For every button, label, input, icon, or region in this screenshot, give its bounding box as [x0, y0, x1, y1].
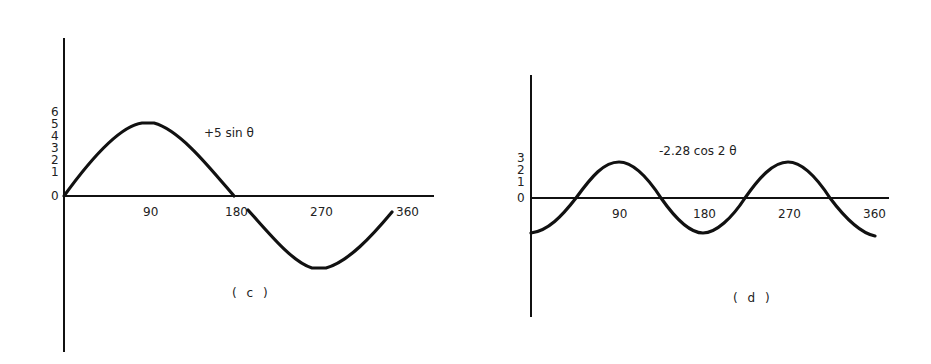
- chart-c: 6 5 4 3 2 1 0 90 180 270 360 +5 sin θ ( …: [51, 38, 434, 352]
- chart-c-curve-label: +5 sin θ: [204, 126, 254, 140]
- chart-c-caption: ( c ): [232, 286, 271, 300]
- chart-c-xtick: 270: [310, 205, 333, 219]
- chart-c-xtick: 360: [396, 205, 419, 219]
- chart-d-y-ticks: 3 2 1 0: [517, 151, 525, 205]
- chart-c-y-ticks: 6 5 4 3 2 1 0: [51, 105, 59, 203]
- chart-d-xtick: 360: [863, 207, 886, 221]
- chart-c-xtick: 90: [143, 205, 158, 219]
- chart-c-ytick: 0: [51, 189, 59, 203]
- chart-d-xtick: 90: [612, 207, 627, 221]
- chart-d-ytick: 0: [517, 191, 525, 205]
- chart-d-caption: ( d ): [733, 291, 773, 305]
- chart-d-ytick: 1: [517, 175, 525, 189]
- chart-d-xtick: 270: [778, 207, 801, 221]
- chart-c-x-ticks: 90 180 270 360: [143, 205, 419, 219]
- figure-canvas: 6 5 4 3 2 1 0 90 180 270 360 +5 sin θ ( …: [0, 0, 931, 364]
- chart-c-ytick: 1: [51, 165, 59, 179]
- chart-d-xtick: 180: [693, 207, 716, 221]
- chart-d: 3 2 1 0 90 180 270 360 -2.28 cos 2 θ ( d…: [517, 75, 889, 317]
- chart-d-curve-label: -2.28 cos 2 θ: [659, 144, 737, 158]
- chart-c-xtick: 180: [225, 205, 248, 219]
